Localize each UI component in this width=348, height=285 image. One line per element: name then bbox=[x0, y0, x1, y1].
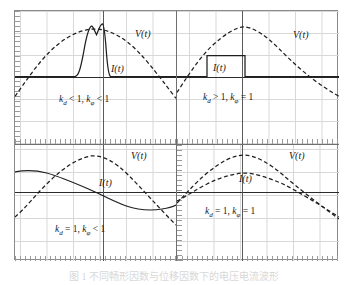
panel-top-left: V(t) I(t) kd < 1, kφ < 1 bbox=[15, 11, 177, 145]
voltage-label: V(t) bbox=[135, 29, 151, 39]
current-curve bbox=[15, 171, 176, 210]
condition-label: kd > 1, kφ = 1 bbox=[203, 93, 253, 105]
current-curve bbox=[177, 173, 339, 217]
condition-label: kd = 1, kφ < 1 bbox=[55, 225, 105, 237]
voltage-curve bbox=[15, 156, 176, 225]
waveform-curves bbox=[177, 145, 339, 261]
waveform-curves bbox=[15, 11, 176, 144]
voltage-curve bbox=[15, 29, 176, 98]
panel-top-right: V(t) I(t) kd > 1, kφ = 1 bbox=[177, 11, 339, 145]
voltage-label: V(t) bbox=[293, 30, 309, 40]
waveform-curves bbox=[177, 11, 339, 144]
panel-bottom-left: V(t) I(t) kd = 1, kφ < 1 bbox=[15, 145, 177, 261]
voltage-curve bbox=[177, 27, 339, 96]
condition-label: kd = 1, kφ = 1 bbox=[205, 207, 255, 219]
voltage-label: V(t) bbox=[131, 151, 147, 161]
current-curve bbox=[177, 56, 339, 77]
figure-caption: 图 1 不同畅形因数与位移因数下的电压电流波形 bbox=[0, 268, 348, 284]
figure-frame: V(t) I(t) kd < 1, kφ < 1 V(t) I(t) kd > … bbox=[14, 10, 338, 260]
current-label: I(t) bbox=[213, 63, 226, 73]
panel-grid: V(t) I(t) kd < 1, kφ < 1 V(t) I(t) kd > … bbox=[15, 11, 337, 259]
panel-bottom-right: V(t) I(t) kd = 1, kφ = 1 bbox=[177, 145, 339, 261]
current-curve bbox=[15, 24, 176, 77]
current-label: I(t) bbox=[99, 178, 112, 188]
voltage-label: V(t) bbox=[289, 151, 305, 161]
waveform-curves bbox=[15, 145, 176, 261]
condition-label: kd < 1, kφ < 1 bbox=[59, 95, 109, 107]
current-label: I(t) bbox=[111, 64, 124, 74]
current-label: I(t) bbox=[239, 174, 252, 184]
